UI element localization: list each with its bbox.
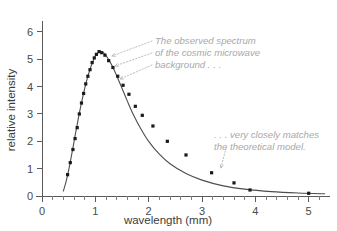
x-tick-label: 1 bbox=[92, 205, 98, 217]
y-tick-label: 1 bbox=[27, 163, 33, 175]
x-axis-title: wavelength (mm) bbox=[123, 214, 212, 226]
y-tick-label: 5 bbox=[27, 53, 33, 65]
data-point bbox=[69, 161, 72, 164]
data-point bbox=[66, 173, 69, 176]
data-point bbox=[141, 114, 144, 117]
data-point bbox=[84, 82, 87, 85]
x-tick-label: 4 bbox=[252, 205, 258, 217]
data-point bbox=[116, 75, 119, 78]
data-point bbox=[88, 68, 91, 71]
data-point bbox=[151, 124, 154, 127]
data-point bbox=[71, 148, 74, 151]
y-tick-label: 2 bbox=[27, 135, 33, 147]
chart-canvas: 0123456 012345 The observed spectrumof t… bbox=[0, 0, 337, 231]
data-point bbox=[95, 53, 98, 56]
y-tick-label: 3 bbox=[27, 108, 33, 120]
data-point bbox=[232, 181, 235, 184]
data-point bbox=[111, 66, 114, 69]
y-tick-label: 4 bbox=[27, 81, 33, 93]
data-point bbox=[248, 188, 251, 191]
data-point bbox=[78, 112, 81, 115]
data-point bbox=[184, 153, 187, 156]
data-point bbox=[134, 105, 137, 108]
data-point bbox=[100, 51, 103, 54]
data-point bbox=[166, 140, 169, 143]
data-point bbox=[82, 92, 85, 95]
y-axis-title: relative intensity bbox=[5, 69, 17, 152]
data-point bbox=[307, 192, 310, 195]
data-point bbox=[107, 59, 110, 62]
data-point bbox=[80, 101, 83, 104]
y-tick-label: 0 bbox=[27, 190, 33, 202]
model-annotation: . . . very closely matchesthe theoretica… bbox=[214, 129, 319, 152]
y-tick-label: 6 bbox=[27, 26, 33, 38]
x-tick-label: 0 bbox=[39, 205, 45, 217]
data-point bbox=[91, 61, 94, 64]
data-point bbox=[73, 137, 76, 140]
x-tick-label: 5 bbox=[306, 205, 312, 217]
data-point bbox=[210, 171, 213, 174]
data-point bbox=[103, 54, 106, 57]
data-point bbox=[127, 93, 130, 96]
data-point bbox=[86, 75, 89, 78]
data-point bbox=[93, 56, 96, 59]
chart-figure: 0123456 012345 The observed spectrumof t… bbox=[0, 0, 337, 231]
data-point bbox=[76, 126, 79, 129]
data-point bbox=[121, 84, 124, 87]
